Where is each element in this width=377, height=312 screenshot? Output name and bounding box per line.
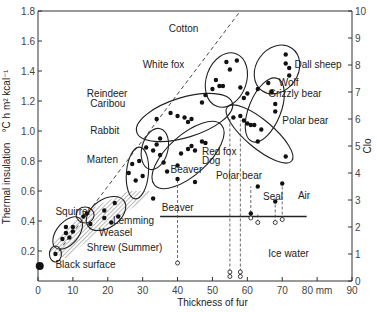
y2-tick-label: 3 [355,195,361,206]
data-point [71,229,75,233]
data-point [189,117,193,121]
label-cotton: Cotton [169,23,198,34]
y2-tick-label: 10 [355,6,367,17]
data-point [249,211,253,215]
y-axis-unit: °C h m² kcal⁻¹ [1,69,12,133]
data-point [256,87,260,91]
data-point [228,275,232,279]
data-point [127,171,131,175]
data-point [256,139,260,143]
data-point [266,81,270,85]
data-point [242,118,246,122]
y-tick-label: 0.4 [21,216,35,227]
data-point [238,85,242,89]
data-point [88,222,92,226]
data-point [273,109,277,113]
data-point [203,93,207,97]
data-point [259,127,263,131]
data-point [140,174,144,178]
y2-tick-label: 1 [355,249,361,260]
data-point [60,237,64,241]
data-point [231,115,235,119]
data-point [252,123,256,127]
label-wolf: Wolf [279,77,299,88]
x-tick-label: 50 [207,285,219,296]
data-point [221,84,225,88]
data-point [165,169,169,173]
data-point [175,177,179,181]
white-fox-outline [198,47,255,113]
data-point [158,136,162,140]
y-tick-label: 1.6 [21,36,35,47]
y-tick-label: 0.6 [21,186,35,197]
y2-tick-label: 6 [355,114,361,125]
data-point [284,52,288,56]
y2-axis-label: Clo [362,138,373,153]
data-point [154,142,158,146]
data-point [238,275,242,279]
x-axis-label: Thickness of fur [177,297,248,308]
label-air: Air [298,190,311,201]
y2-tick-label: 9 [355,33,361,44]
data-point [256,184,260,188]
data-point [245,91,249,95]
data-point [287,66,291,70]
data-point [238,270,242,274]
y-tick-label: 1.0 [21,126,35,137]
label-marten: Marten [87,154,118,165]
x-tick-label: 30 [137,285,149,296]
data-point [71,225,75,229]
data-point [130,162,134,166]
label-polar-bear-air: Polar bear [282,115,329,126]
label-reindeer: Reindeer [87,88,128,99]
data-point [228,67,232,71]
y2-tick-label: 2 [355,222,361,233]
data-point [200,100,204,104]
data-point [102,216,106,220]
y2-tick-label: 8 [355,60,361,71]
annotations: CottonWhite foxReindeerCaribouRabbitMart… [55,23,342,270]
data-point [189,144,193,148]
x-tick-label: 40 [172,285,184,296]
label-beaver-ice: Beaver [162,202,194,213]
y-tick-label: 1.2 [21,96,35,107]
x-tick-label: 20 [102,285,114,296]
label-ice-water: Ice water [268,248,309,259]
label-beaver-air: Beaver [171,164,203,175]
label-grizzly-bear: Grizzly bear [268,88,322,99]
y-tick-label: 0.2 [21,246,35,257]
data-point [133,178,137,182]
data-point [158,153,162,157]
data-point [249,216,253,220]
data-point [36,262,44,270]
data-point [53,252,57,256]
label-caribou: Caribou [90,98,125,109]
label-weasel: Weasel [99,227,132,238]
data-point [168,111,172,115]
data-point [137,159,141,163]
data-point [214,78,218,82]
label-dog: Dog [202,155,220,166]
y-tick-label: 1.8 [21,6,35,17]
x-tick-label: 10 [67,285,79,296]
label-rabbit: Rabbit [90,125,119,136]
data-point [186,147,190,151]
data-point [210,87,214,91]
data-point [151,196,155,200]
y2-tick-label: 4 [355,168,361,179]
label-lemming: Lemming [113,215,154,226]
data-point [64,225,68,229]
data-point [151,148,155,152]
data-point [102,208,106,212]
x-tick-label: 0 [35,285,41,296]
data-point [193,180,197,184]
data-point [179,151,183,155]
label-white-fox: White fox [143,59,185,70]
data-point [256,221,260,225]
data-point [161,160,165,164]
y2-tick-label: 0 [355,276,361,287]
data-point [242,96,246,100]
fur-insulation-chart: 01020304050607080 mm90Thickness of fur0.… [0,0,377,312]
data-point [64,231,68,235]
data-point [182,115,186,119]
